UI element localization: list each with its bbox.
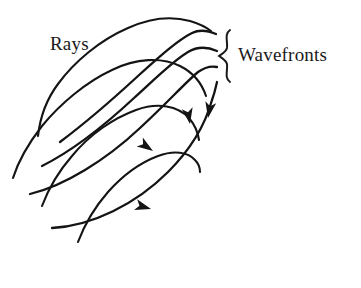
ray-curves-group xyxy=(13,18,211,242)
ray-curve-3 xyxy=(42,106,199,206)
wavefronts-label: Wavefronts xyxy=(238,44,327,66)
wavefront-curve-2 xyxy=(42,48,217,166)
diagram-canvas: Rays Wavefronts xyxy=(0,0,361,288)
rays-label: Rays xyxy=(50,33,89,55)
wavefront-curve-4 xyxy=(52,82,217,228)
wavefronts-brace-group xyxy=(219,30,230,82)
curly-brace-icon xyxy=(219,30,230,82)
ray-arrowheads-group xyxy=(134,101,216,214)
wavefront-curves-group xyxy=(30,31,217,228)
arrowhead-icon-4 xyxy=(134,199,152,214)
arrowhead-icon-3 xyxy=(137,137,156,155)
